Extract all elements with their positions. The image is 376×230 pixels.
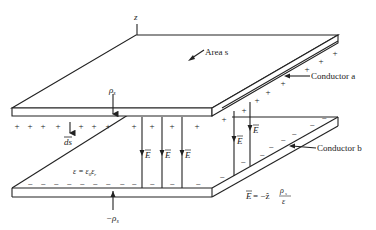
svg-text:−: − [268, 142, 273, 152]
svg-text:−: − [259, 150, 264, 160]
svg-text:+: + [318, 56, 323, 66]
capacitor-diagram: + + + + + + + + + + + + + + + + + + + − … [0, 0, 376, 230]
svg-text:+: + [280, 78, 285, 88]
bottom-plate [12, 115, 338, 197]
conductor-b-label: Conductor b [317, 143, 362, 153]
svg-text:+: + [40, 121, 45, 131]
rho-s-bottom-label: −ρs [106, 213, 119, 224]
svg-text:+: + [105, 121, 110, 131]
svg-text:−: − [92, 179, 97, 189]
svg-text:−: − [240, 157, 245, 167]
svg-text:−: − [309, 120, 314, 130]
svg-text:−: − [119, 179, 124, 189]
svg-text:+: + [304, 64, 309, 74]
svg-text:+: + [254, 95, 259, 105]
svg-text:−: − [105, 179, 110, 189]
svg-text:−: − [169, 179, 174, 189]
svg-text:ε: ε [282, 197, 286, 206]
area-label: Area s [205, 47, 229, 57]
svg-text:+: + [241, 105, 246, 115]
svg-text:+: + [55, 121, 60, 131]
svg-text:ρ: ρ [279, 186, 284, 195]
svg-text:−: − [219, 172, 224, 182]
svg-text:−: − [291, 129, 296, 139]
svg-text:−: − [131, 179, 136, 189]
svg-text:s: s [285, 191, 287, 196]
field-labels: E E E E E [144, 125, 259, 160]
svg-text:+: + [149, 121, 154, 131]
svg-text:−: − [40, 179, 45, 189]
svg-text:−: − [66, 179, 71, 189]
conductor-a-label: Conductor a [311, 71, 355, 81]
svg-text:−: − [53, 179, 58, 189]
svg-text:+: + [169, 121, 174, 131]
svg-text:−: − [149, 179, 154, 189]
diagram-canvas: + + + + + + + + + + + + + + + + + + + − … [0, 0, 376, 230]
svg-text:E: E [164, 150, 171, 160]
svg-text:+: + [27, 121, 32, 131]
svg-text:−: − [280, 135, 285, 145]
svg-text:+: + [221, 114, 226, 124]
svg-text:−: − [195, 179, 200, 189]
ds-label: ds [64, 137, 73, 147]
z-axis-label: z [133, 12, 138, 22]
svg-text:+: + [332, 48, 337, 58]
svg-text:−: − [79, 179, 84, 189]
svg-text:−: − [27, 179, 32, 189]
svg-text:+: + [265, 87, 270, 97]
svg-text:+: + [194, 121, 199, 131]
svg-text:E: E [245, 191, 252, 201]
svg-text:= −ẑ: = −ẑ [253, 191, 269, 201]
svg-text:E: E [236, 136, 243, 146]
field-equation: E = −ẑ ρ s ε [245, 186, 291, 206]
negative-charges: − − − − − − − − − − − − − − − − − − − − [27, 113, 326, 189]
svg-text:E: E [252, 125, 259, 135]
svg-text:E: E [144, 150, 151, 160]
svg-text:−: − [321, 113, 326, 123]
permittivity-label: ε = ε0εr [73, 167, 96, 177]
svg-text:+: + [91, 121, 96, 131]
svg-text:+: + [131, 121, 136, 131]
svg-text:E: E [184, 150, 191, 160]
svg-text:+: + [14, 121, 19, 131]
svg-text:+: + [78, 121, 83, 131]
